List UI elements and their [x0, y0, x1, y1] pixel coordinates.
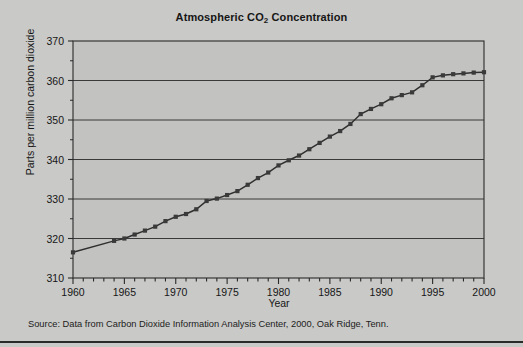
- x-axis-ticks: [73, 278, 484, 284]
- y-axis-ticks: [68, 41, 73, 278]
- data-point-marker: [71, 250, 75, 254]
- y-tick-label: 350: [46, 114, 64, 126]
- data-point-marker: [215, 197, 219, 201]
- data-point-marker: [266, 170, 270, 174]
- data-point-marker: [328, 134, 332, 138]
- y-axis-tick-labels: 310320330340350360370: [46, 35, 64, 284]
- data-point-marker: [225, 193, 229, 197]
- data-point-marker: [482, 70, 486, 74]
- data-point-marker: [379, 102, 383, 106]
- data-point-marker: [184, 212, 188, 216]
- data-point-marker: [122, 236, 126, 240]
- data-point-marker: [163, 219, 167, 223]
- bottom-divider: [0, 341, 523, 343]
- data-point-marker: [143, 229, 147, 233]
- data-point-marker: [369, 107, 373, 111]
- data-point-marker: [235, 189, 239, 193]
- data-point-marker: [451, 72, 455, 76]
- data-point-marker: [441, 73, 445, 77]
- y-tick-label: 320: [46, 233, 64, 245]
- y-tick-label: 360: [46, 75, 64, 87]
- data-point-marker: [287, 158, 291, 162]
- chart-plot-area: 310320330340350360370 196019651970197519…: [0, 0, 523, 300]
- y-tick-label: 310: [46, 272, 64, 284]
- data-point-marker: [338, 129, 342, 133]
- y-tick-label: 330: [46, 193, 64, 205]
- data-point-marker: [276, 163, 280, 167]
- data-point-marker: [133, 232, 137, 236]
- data-point-marker: [256, 176, 260, 180]
- y-tick-label: 370: [46, 35, 64, 47]
- data-point-marker: [359, 112, 363, 116]
- data-point-marker: [194, 207, 198, 211]
- x-axis-title: Year: [73, 297, 485, 309]
- data-point-marker: [389, 96, 393, 100]
- data-point-marker: [297, 153, 301, 157]
- data-point-marker: [246, 183, 250, 187]
- data-point-marker: [112, 239, 116, 243]
- y-tick-label: 340: [46, 154, 64, 166]
- data-point-marker: [318, 141, 322, 145]
- data-point-marker: [472, 71, 476, 75]
- data-point-marker: [348, 122, 352, 126]
- data-point-marker: [307, 147, 311, 151]
- data-point-marker: [461, 71, 465, 75]
- co2-concentration-figure: Atmospheric CO2 Concentration 3103203303…: [0, 0, 523, 347]
- data-point-marker: [431, 75, 435, 79]
- y-axis-title: Parts per million carbon dioxide: [24, 2, 36, 202]
- data-point-marker: [153, 225, 157, 229]
- data-point-marker: [204, 199, 208, 203]
- data-point-marker: [174, 215, 178, 219]
- data-point-marker: [420, 83, 424, 87]
- data-point-marker: [400, 93, 404, 97]
- source-note: Source: Data from Carbon Dioxide Informa…: [28, 319, 389, 329]
- data-point-marker: [410, 90, 414, 94]
